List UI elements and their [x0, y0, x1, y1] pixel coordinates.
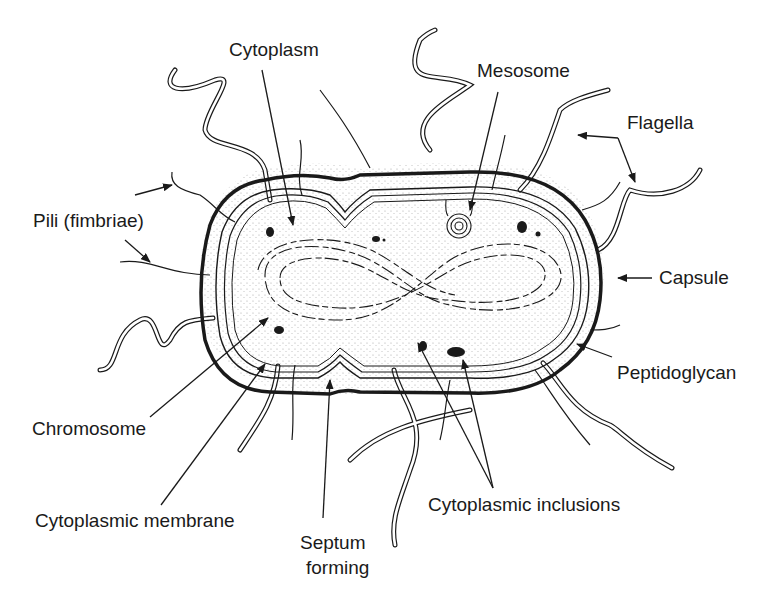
label-cytoplasm: Cytoplasm	[229, 39, 319, 61]
label-cytoplasmic-membrane: Cytoplasmic membrane	[35, 510, 235, 532]
label-septum-line1: Septum	[300, 532, 365, 554]
label-capsule: Capsule	[659, 267, 729, 289]
label-pili: Pili (fimbriae)	[33, 210, 144, 232]
label-cytoplasmic-inclusions: Cytoplasmic inclusions	[428, 494, 620, 516]
label-mesosome: Mesosome	[477, 60, 570, 82]
label-flagella: Flagella	[627, 112, 694, 134]
label-chromosome: Chromosome	[32, 418, 146, 440]
label-septum-line2: forming	[306, 557, 369, 579]
label-peptidoglycan: Peptidoglycan	[617, 362, 736, 384]
capsule-halo	[199, 163, 603, 395]
